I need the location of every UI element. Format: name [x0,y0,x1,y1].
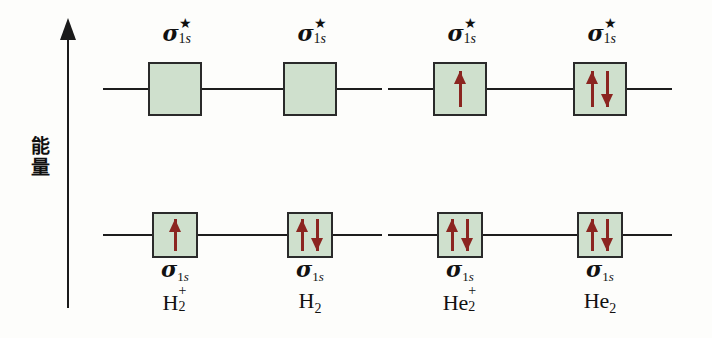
molecule-count-subscript: 2 [314,301,321,316]
orbital-subscript: 1s [462,269,474,284]
bonding-orbital-level-he2 [520,208,680,262]
electron-arrow-up [446,219,459,251]
molecule-charge-superscript: + [178,283,186,299]
sigma-glyph: σ [447,20,463,46]
orbital-box [287,212,333,258]
molecule-column-he2: σ★1sσ1sHe2 [520,0,680,338]
arrow-head [601,94,613,107]
molecule-count-subscript: 2 [468,299,475,315]
orbital-subscript: 1s [314,31,326,47]
sigma-glyph: σ [296,256,312,282]
electron-arrow-up [454,71,467,107]
molecule-element-symbol: H [163,290,179,315]
mo-energy-diagram: 能 量 σ★1sσ1sH+2σ★1sσ1sH2σ★1sσ1sHe+2σ★1sσ1… [0,0,712,338]
energy-axis-line [67,34,69,308]
energy-axis-label: 能 量 [26,136,54,178]
molecule-charge-sub-stack: +2 [468,288,477,310]
sigma-glyph: σ [297,20,313,46]
electron-arrow-up [586,71,599,107]
antibonding-star-icon: ★ [604,15,617,32]
sigma-star-sub-stack: ★1s [179,20,188,41]
orbital-box [152,212,198,258]
antibonding-orbital-label-he2: σ★1s [520,20,680,47]
antibonding-star-icon: ★ [179,15,192,32]
molecule-count-subscript: 2 [609,301,616,316]
arrow-head [311,238,323,251]
antibonding-orbital-level-he2-plus [380,62,540,116]
electron-arrow-up [169,219,182,251]
molecule-charge-superscript: + [468,283,476,299]
molecule-label-he2: He2 [520,288,680,317]
bonding-orbital-label-he2: σ1s [520,256,680,285]
sigma-glyph: σ [161,256,177,282]
orbital-subscript: 1s [602,269,614,284]
electron-arrow-down [311,219,324,251]
orbital-subscript: 1s [177,269,189,284]
arrow-head [169,219,181,232]
orbital-subscript: 1s [312,269,324,284]
orbital-box [433,62,487,116]
antibonding-orbital-level-h2 [230,62,390,116]
arrow-head [586,219,598,232]
antibonding-orbital-level-he2 [520,62,680,116]
molecule-count-subscript: 2 [178,299,185,315]
sigma-glyph: σ [446,256,462,282]
sigma-star-sub-stack: ★1s [604,20,613,41]
orbital-box [573,62,627,116]
sigma-glyph: σ [162,20,178,46]
antibonding-orbital-label-h2: σ★1s [230,20,390,47]
molecule-column-he2-plus: σ★1sσ1sHe+2 [380,0,540,338]
bonding-orbital-label-h2: σ1s [230,256,390,285]
electron-arrow-down [601,71,614,107]
orbital-subscript: 1s [604,31,616,47]
bonding-orbital-level-he2-plus [380,208,540,262]
arrow-head [296,219,308,232]
molecule-element-symbol: H [299,288,315,313]
orbital-box [577,212,623,258]
antibonding-star-icon: ★ [314,15,327,32]
arrow-head [454,71,466,84]
orbital-box [437,212,483,258]
electron-arrow-down [601,219,614,251]
orbital-box [283,62,337,116]
arrow-head [586,71,598,84]
orbital-box [148,62,202,116]
arrow-head [446,219,458,232]
sigma-glyph: σ [587,20,603,46]
orbital-subscript: 1s [179,31,191,47]
arrow-head [461,238,473,251]
orbital-subscript: 1s [464,31,476,47]
arrow-head [601,238,613,251]
sigma-star-sub-stack: ★1s [314,20,323,41]
energy-axis: 能 量 [56,18,80,308]
energy-axis-label-char-2: 量 [26,157,54,178]
electron-arrow-down [461,219,474,251]
molecule-element-symbol: He [584,288,610,313]
bonding-orbital-label-he2-plus: σ1s [380,256,540,285]
electron-arrow-up [586,219,599,251]
antibonding-orbital-label-he2-plus: σ★1s [380,20,540,47]
molecule-charge-sub-stack: +2 [178,288,187,310]
electron-arrow-up [296,219,309,251]
molecule-column-h2: σ★1sσ1sH2 [230,0,390,338]
sigma-star-sub-stack: ★1s [464,20,473,41]
molecule-element-symbol: He [443,290,469,315]
molecule-label-he2-plus: He+2 [380,288,540,316]
antibonding-star-icon: ★ [464,15,477,32]
sigma-glyph: σ [586,256,602,282]
molecule-label-h2: H2 [230,288,390,317]
energy-axis-label-char-1: 能 [26,136,54,157]
bonding-orbital-level-h2 [230,208,390,262]
